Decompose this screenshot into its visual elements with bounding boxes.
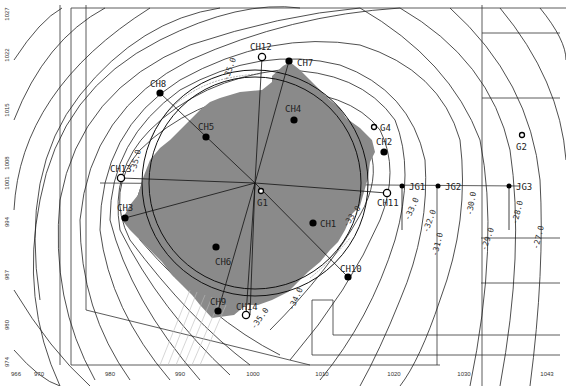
x-tick-label: 1043 bbox=[540, 371, 554, 377]
well-marker-open-icon[interactable] bbox=[520, 133, 525, 138]
well-marker-filled-icon[interactable] bbox=[380, 148, 387, 155]
well-marker-filled-icon[interactable] bbox=[344, 273, 351, 280]
x-tick-label: 980 bbox=[105, 371, 116, 377]
well-marker-open-icon[interactable] bbox=[117, 174, 124, 181]
y-tick-label: 994 bbox=[4, 216, 10, 227]
well-label: CH7 bbox=[297, 58, 313, 68]
well-marker-open-icon[interactable] bbox=[383, 189, 390, 196]
x-tick-label: 1020 bbox=[387, 371, 401, 377]
well-marker-filled-icon[interactable] bbox=[156, 89, 163, 96]
well-label: CH14 bbox=[236, 302, 258, 312]
well-label: CH13 bbox=[110, 164, 132, 174]
well-label: CH9 bbox=[210, 297, 226, 307]
contour-value-label: -33.0 bbox=[403, 196, 421, 222]
well-label: CH6 bbox=[215, 257, 231, 267]
well-marker-open-icon[interactable] bbox=[258, 53, 265, 60]
y-tick-label: 987 bbox=[4, 269, 10, 280]
well-marker-filled-icon[interactable] bbox=[212, 243, 219, 250]
y-tick-label: 1008 bbox=[4, 156, 10, 170]
y-axis: 10271022101510081001994987980974 bbox=[4, 7, 10, 367]
contour-value-label: -30.0 bbox=[465, 191, 478, 216]
contour-value-label: -27.0 bbox=[531, 224, 546, 250]
well-marker-filled-icon[interactable] bbox=[214, 307, 221, 314]
well-label: G2 bbox=[516, 142, 527, 152]
well-marker-open-icon[interactable] bbox=[372, 125, 377, 130]
well-label: CH2 bbox=[376, 137, 392, 147]
x-tick-label: 1000 bbox=[246, 371, 260, 377]
well-label: CH11 bbox=[377, 198, 399, 208]
contour-value-label: -35.0 bbox=[221, 56, 238, 82]
x-tick-label: 966 bbox=[11, 371, 22, 377]
well-marker-open-icon[interactable] bbox=[242, 311, 249, 318]
well-marker-filled-icon[interactable] bbox=[121, 214, 128, 221]
well-marker-filled-icon[interactable] bbox=[202, 133, 209, 140]
well-label: CH10 bbox=[340, 264, 362, 274]
y-tick-label: 1022 bbox=[4, 48, 10, 62]
contour-value-label: -28.0 bbox=[510, 199, 525, 225]
x-tick-label: 970 bbox=[34, 371, 45, 377]
well-marker-filled-icon[interactable] bbox=[290, 116, 297, 123]
well-label: G1 bbox=[257, 198, 268, 208]
x-tick-label: 1010 bbox=[315, 371, 329, 377]
well-label: G4 bbox=[380, 123, 391, 133]
well-label: CH1 bbox=[320, 219, 336, 229]
y-tick-label: 974 bbox=[4, 356, 10, 367]
well-label: CH12 bbox=[250, 42, 272, 52]
x-tick-label: 990 bbox=[175, 371, 186, 377]
well-marker-filled-icon[interactable] bbox=[436, 184, 441, 189]
well-label: CH5 bbox=[198, 122, 214, 132]
well-marker-open-icon[interactable] bbox=[259, 189, 264, 194]
y-tick-label: 980 bbox=[4, 319, 10, 330]
well-marker-filled-icon[interactable] bbox=[400, 184, 405, 189]
well-label: JG1 bbox=[409, 182, 425, 192]
well-label: JG2 bbox=[445, 182, 461, 192]
y-tick-label: 1001 bbox=[4, 176, 10, 190]
well-marker-filled-icon[interactable] bbox=[309, 219, 316, 226]
x-tick-label: 1030 bbox=[457, 371, 471, 377]
well-label: CH4 bbox=[285, 104, 301, 114]
y-tick-label: 1015 bbox=[4, 103, 10, 117]
contour-value-label: -31.0 bbox=[430, 231, 445, 257]
well-label: CH3 bbox=[117, 203, 133, 213]
y-tick-label: 1027 bbox=[4, 7, 10, 21]
well-marker-filled-icon[interactable] bbox=[285, 57, 292, 64]
well-marker-filled-icon[interactable] bbox=[507, 184, 512, 189]
contour-map: 10271022101510081001994987980974 9669709… bbox=[0, 0, 566, 386]
well-label: JG3 bbox=[516, 182, 532, 192]
well-label: CH8 bbox=[150, 79, 166, 89]
